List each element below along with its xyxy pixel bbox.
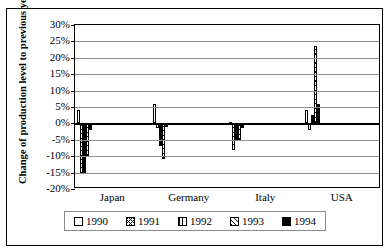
y-axis-tick-label: -20%	[46, 183, 70, 194]
legend-item-1992[interactable]: 1992	[178, 216, 212, 227]
legend-label: 1991	[138, 216, 160, 227]
y-axis-tick-mark	[71, 58, 75, 59]
y-axis-tick-label: 10%	[50, 84, 70, 95]
bar-group	[75, 25, 151, 187]
y-axis-tick-mark	[71, 173, 75, 174]
grid-line	[75, 58, 379, 59]
bar-series-container	[75, 25, 379, 187]
bar-usa-1990	[305, 110, 308, 123]
zero-line	[75, 123, 379, 124]
y-axis-tick-mark	[71, 25, 75, 26]
legend-swatch-icon	[282, 217, 291, 226]
x-axis-label-italy: Italy	[255, 190, 275, 204]
legend-label: 1993	[242, 216, 264, 227]
x-axis-category-labels: JapanGermanyItalyUSA	[74, 190, 380, 206]
y-axis-tick-label: -5%	[52, 133, 70, 144]
y-axis-tick-mark	[71, 107, 75, 108]
y-axis-tick-label: 15%	[50, 68, 70, 79]
y-axis-tick-mark	[71, 123, 75, 124]
legend-item-1994[interactable]: 1994	[282, 216, 316, 227]
grid-line	[75, 74, 379, 75]
y-axis-tick-label: 0%	[55, 117, 70, 128]
bar-germany-1993	[162, 123, 165, 159]
y-axis-tick-mark	[71, 140, 75, 141]
y-axis-title: Change of production level to previous y…	[6, 24, 40, 184]
y-axis-tick-mark	[71, 74, 75, 75]
x-axis-label-japan: Japan	[100, 190, 125, 204]
y-axis-tick-label: 5%	[55, 101, 70, 112]
y-axis-tick-labels: 30%25%20%15%10%5%0%-5%-10%-15%-20%	[42, 24, 72, 188]
bar-group	[227, 25, 303, 187]
legend-swatch-icon	[74, 217, 83, 226]
y-axis-tick-label: 25%	[50, 35, 70, 46]
legend-label: 1990	[86, 216, 108, 227]
plot-area	[74, 24, 380, 188]
y-axis-tick-label: -15%	[46, 166, 70, 177]
y-axis-tick-mark	[71, 41, 75, 42]
plot-wrapper: 30%25%20%15%10%5%0%-5%-10%-15%-20%	[42, 24, 380, 188]
grid-line	[75, 91, 379, 92]
y-axis-title-text: Change of production level to previous y…	[17, 24, 29, 184]
bar-japan-1990	[77, 110, 80, 123]
bar-group	[303, 25, 379, 187]
y-axis-tick-label: 20%	[50, 51, 70, 62]
x-axis-label-germany: Germany	[168, 190, 209, 204]
chart-legend: 19901991199219931994	[64, 211, 326, 231]
bar-group	[151, 25, 227, 187]
legend-swatch-icon	[126, 217, 135, 226]
grid-line	[75, 140, 379, 141]
y-axis-tick-label: 30%	[50, 19, 70, 30]
legend-label: 1994	[294, 216, 316, 227]
x-axis-label-usa: USA	[331, 190, 353, 204]
grid-line	[75, 107, 379, 108]
legend-label: 1992	[190, 216, 212, 227]
y-axis-tick-mark	[71, 156, 75, 157]
grid-line	[75, 156, 379, 157]
legend-swatch-icon	[230, 217, 239, 226]
y-axis-tick-label: -10%	[46, 150, 70, 161]
grid-line	[75, 173, 379, 174]
legend-item-1990[interactable]: 1990	[74, 216, 108, 227]
legend-item-1993[interactable]: 1993	[230, 216, 264, 227]
chart-figure: Change of production level to previous y…	[0, 0, 390, 252]
grid-line	[75, 41, 379, 42]
y-axis-tick-mark	[71, 91, 75, 92]
legend-swatch-icon	[178, 217, 187, 226]
legend-item-1991[interactable]: 1991	[126, 216, 160, 227]
